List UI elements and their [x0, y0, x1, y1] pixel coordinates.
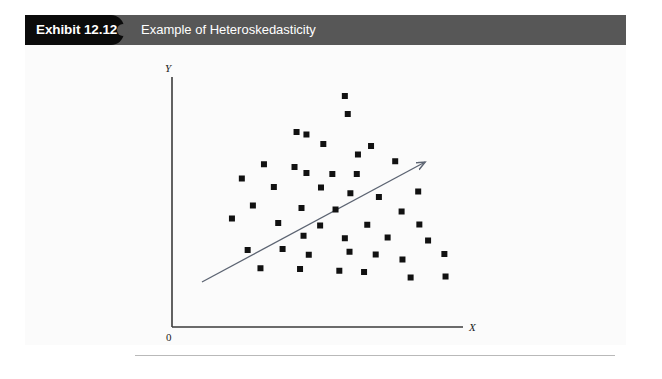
scatter-point — [415, 189, 421, 195]
scatter-point — [399, 209, 405, 215]
exhibit-number-label: Exhibit 12.12 — [36, 22, 117, 37]
scatter-point — [317, 223, 323, 229]
scatter-point — [229, 216, 235, 222]
origin-label: 0 — [166, 331, 172, 343]
scatter-point — [239, 176, 245, 182]
scatter-point — [392, 158, 398, 164]
scatter-point — [345, 111, 351, 117]
exhibit-notch-decoration — [117, 24, 129, 36]
y-axis-label: Y — [165, 62, 173, 74]
scatter-point — [303, 170, 309, 176]
scatter-point — [297, 266, 303, 272]
scatter-point — [271, 184, 277, 190]
x-axis-label: X — [468, 321, 477, 333]
scatter-point — [347, 249, 353, 255]
scatter-point — [329, 171, 335, 177]
scatter-point — [292, 164, 298, 170]
scatter-point — [364, 222, 370, 228]
scatter-point — [399, 257, 405, 263]
scatter-point — [385, 235, 391, 241]
scatter-point — [318, 185, 324, 191]
exhibit-header: Exhibit 12.12 Example of Heteroskedastic… — [25, 15, 626, 45]
scatter-point — [441, 251, 447, 257]
scatter-point — [245, 247, 251, 253]
scatter-point — [425, 238, 431, 244]
scatter-point — [342, 235, 348, 241]
scatter-point — [250, 203, 256, 209]
page-canvas: Exhibit 12.12 Example of Heteroskedastic… — [0, 0, 662, 379]
scatter-plot: Y X 0 — [25, 45, 626, 345]
scatter-point — [336, 268, 342, 274]
scatter-point — [347, 190, 353, 196]
scatter-point — [306, 252, 312, 258]
scatter-point — [333, 207, 339, 213]
scatter-point — [355, 152, 361, 158]
scatter-point — [342, 93, 348, 99]
scatter-point — [301, 233, 307, 239]
trendline — [202, 162, 425, 282]
axes-group: Y X 0 — [165, 62, 477, 343]
scatter-point — [373, 252, 379, 258]
trendline-arrow — [202, 162, 425, 282]
scatter-point — [257, 265, 263, 271]
scatter-point — [416, 222, 422, 228]
bottom-divider — [135, 355, 615, 356]
scatter-point — [443, 274, 449, 280]
scatter-point — [299, 205, 305, 211]
scatter-point — [361, 269, 367, 275]
scatter-point — [303, 132, 309, 138]
scatter-point — [376, 194, 382, 200]
scatter-points-group — [229, 93, 449, 281]
scatter-point — [368, 143, 374, 149]
figure-area: Y X 0 — [25, 45, 626, 345]
scatter-point — [408, 275, 414, 281]
scatter-point — [261, 161, 267, 167]
scatter-point — [354, 171, 360, 177]
scatter-point — [320, 141, 326, 147]
exhibit-number-tag: Exhibit 12.12 — [25, 15, 124, 45]
scatter-point — [275, 220, 281, 226]
scatter-point — [280, 246, 286, 252]
scatter-point — [294, 129, 300, 135]
exhibit-title: Example of Heteroskedasticity — [141, 22, 316, 37]
